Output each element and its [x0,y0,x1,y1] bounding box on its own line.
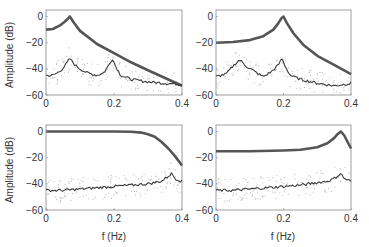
ylabel-bottom: Amplitude (dB) [4,137,15,203]
ytick-label: −60 [26,205,43,216]
ytick-label: −40 [26,178,43,189]
xtick-label: 0 [43,213,49,224]
ytick-label: −20 [196,37,213,48]
ytick-label: 0 [207,126,213,137]
ytick-label: −40 [196,178,213,189]
figure: 0−20−40−6000.20.40−20−40−6000.20.40−20−4… [0,0,369,247]
xtick-label: 0 [43,98,49,109]
xtick-label: 0.4 [344,213,358,224]
xtick-label: 0 [213,98,219,109]
ytick-label: −60 [196,90,213,101]
panel-top-right: 0−20−40−6000.20.4 [196,10,358,109]
xtick-label: 0.2 [107,98,121,109]
ytick-label: 0 [207,11,213,22]
panel-bottom-right: 0−20−40−6000.20.4 [196,125,358,224]
xtick-label: 0.2 [277,213,291,224]
xtick-label: 0.4 [344,98,358,109]
xtick-label: 0.2 [107,213,121,224]
ytick-label: −60 [26,90,43,101]
ylabel-top: Amplitude (dB) [4,22,15,88]
ytick-label: −60 [196,205,213,216]
ytick-label: −20 [26,37,43,48]
ytick-label: −20 [26,152,43,163]
ytick-label: −40 [196,63,213,74]
axes-box [216,125,351,210]
panel-top-left: 0−20−40−6000.20.4 [26,10,189,109]
ytick-label: −20 [196,152,213,163]
panel-bottom-left: 0−20−40−6000.20.4 [26,125,189,224]
xtick-label: 0.2 [277,98,291,109]
ytick-label: −40 [26,63,43,74]
xlabel-left: f (Hz) [102,231,126,242]
axes-box [46,125,182,210]
xlabel-right: f (Hz) [271,231,295,242]
xtick-label: 0.4 [175,213,189,224]
ytick-label: 0 [37,126,43,137]
xtick-label: 0 [213,213,219,224]
xtick-label: 0.4 [175,98,189,109]
ytick-label: 0 [37,11,43,22]
